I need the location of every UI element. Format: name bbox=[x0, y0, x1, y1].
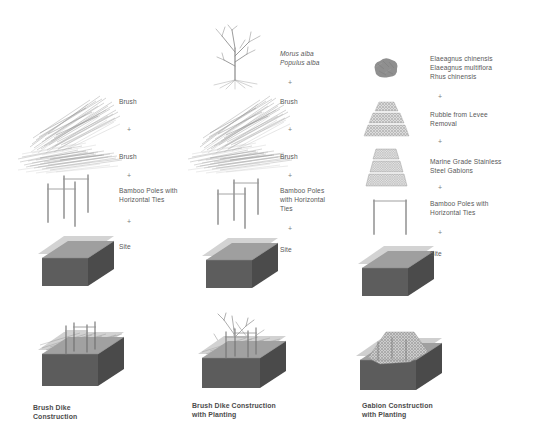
column-brush-dike-construction-with-planting: Morus alba Populus alba + Brush + Brush … bbox=[170, 0, 360, 446]
site-block-icon bbox=[354, 238, 438, 304]
column-caption: Gabion Construction with Planting bbox=[362, 401, 492, 420]
component-label-rubble: Rubble from Levee Removal bbox=[430, 110, 520, 128]
plus-symbol: + bbox=[288, 225, 292, 232]
bare-tree-icon bbox=[202, 22, 268, 90]
plus-symbol: + bbox=[288, 79, 292, 86]
column-brush-dike-construction: Brush + Brush + Bamboo Poles with Horizo… bbox=[0, 0, 180, 446]
bamboo-poles-icon bbox=[212, 176, 274, 232]
component-label-site: Site bbox=[280, 245, 338, 254]
component-label-brush-lower: Brush bbox=[280, 152, 342, 161]
rubble-pile-icon bbox=[364, 100, 410, 146]
component-label-gabions: Marine Grade Stainless Steel Gabions bbox=[430, 157, 525, 175]
shrub-icon bbox=[371, 56, 401, 80]
plus-symbol: + bbox=[438, 229, 442, 236]
plus-symbol: + bbox=[438, 184, 442, 191]
plus-symbol: + bbox=[288, 172, 292, 179]
brush-dike-assembly-icon bbox=[32, 320, 130, 396]
bamboo-poles-icon bbox=[42, 172, 104, 228]
column-caption: Brush Dike Construction with Planting bbox=[192, 401, 322, 420]
plus-symbol: + bbox=[127, 172, 131, 179]
gabion-planting-assembly-icon bbox=[348, 318, 452, 398]
plus-symbol: + bbox=[288, 126, 292, 133]
plus-symbol: + bbox=[127, 126, 131, 133]
site-block-icon bbox=[198, 230, 282, 296]
brush-dike-planting-assembly-icon bbox=[190, 312, 294, 398]
bamboo-poles-pair-icon bbox=[368, 196, 416, 238]
plus-symbol: + bbox=[438, 138, 442, 145]
column-gabion-construction-with-planting: Elaeagnus chinensis Elaeagnus multiflora… bbox=[340, 0, 537, 446]
component-label-species: Elaeagnus chinensis Elaeagnus multiflora… bbox=[430, 54, 530, 81]
plus-symbol: + bbox=[127, 218, 131, 225]
component-label-brush-lower: Brush bbox=[119, 152, 177, 161]
site-block-icon bbox=[34, 228, 118, 294]
component-label-brush-upper: Brush bbox=[119, 97, 177, 106]
diagram-canvas: Brush + Brush + Bamboo Poles with Horizo… bbox=[0, 0, 537, 446]
component-label-bamboo-poles: Bamboo Poles with Horizontal Ties bbox=[280, 186, 338, 213]
brush-mat-icon bbox=[16, 140, 126, 174]
component-label-site: Site bbox=[119, 242, 177, 251]
gabion-basket-icon bbox=[366, 148, 410, 188]
component-label-bamboo-poles: Bamboo Poles with Horizontal Ties bbox=[430, 199, 525, 217]
component-label-brush-upper: Brush bbox=[280, 97, 342, 106]
plus-symbol: + bbox=[438, 93, 442, 100]
column-caption: Brush Dike Construction bbox=[33, 403, 143, 422]
component-label-site: Site bbox=[430, 249, 488, 258]
